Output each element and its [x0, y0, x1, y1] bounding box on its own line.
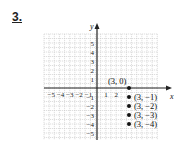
x-axis-label: x [169, 92, 174, 101]
y-tick-label: −2 [87, 103, 95, 111]
x-tick-label: 1 [104, 91, 108, 99]
y-tick-label: −1 [87, 94, 95, 102]
data-point [127, 113, 131, 117]
y-tick-label: −3 [87, 112, 95, 120]
x-tick-label: −2 [75, 91, 83, 99]
data-points: (3, 0)(3, −1)(3, −2)(3, −3)(3, −4) [108, 76, 157, 129]
x-tick-label: −5 [48, 91, 56, 99]
coordinate-plane: y x −5−4−3−2−11254321−1−2−3−4−5 (3, 0)(3… [0, 0, 182, 150]
x-axis [44, 86, 172, 91]
y-tick-label: 5 [91, 40, 95, 48]
x-tick-label: 2 [115, 91, 119, 99]
y-tick-label: 3 [91, 58, 95, 66]
data-point [127, 122, 131, 126]
point-label: (3, −4) [134, 119, 157, 129]
y-tick-label: −4 [87, 121, 95, 129]
data-point [127, 104, 131, 108]
x-tick-label: −4 [57, 91, 65, 99]
y-axis-label: y [89, 22, 94, 31]
x-tick-label: −3 [66, 91, 74, 99]
point-label: (3, 0) [108, 76, 127, 86]
y-tick-label: 4 [91, 49, 95, 57]
data-point [127, 95, 131, 99]
y-tick-label: 1 [91, 76, 95, 84]
data-point [127, 86, 131, 90]
y-tick-label: 2 [91, 67, 95, 75]
y-tick-label: −5 [87, 130, 95, 138]
